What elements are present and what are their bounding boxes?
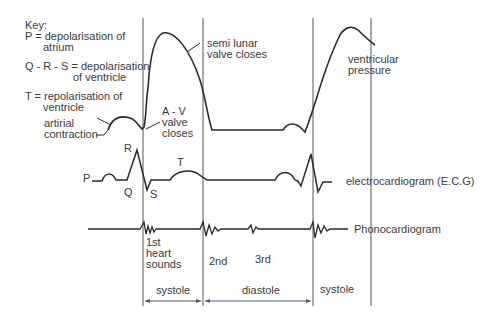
- key-p-line2: atrium: [43, 42, 74, 53]
- second-heart-sound-label: 2nd: [209, 256, 227, 267]
- ventricular-pressure-label-2: pressure: [348, 65, 391, 76]
- phase-arrows: [145, 299, 311, 303]
- systole-label-1: systole: [156, 285, 190, 296]
- atrial-contraction-label-2: contraction: [44, 129, 98, 140]
- ecg-label: electrocardiogram (E.C.G): [346, 176, 474, 187]
- ecg-s-label: S: [150, 189, 157, 200]
- third-heart-sound-label: 3rd: [255, 254, 271, 265]
- diastole-label: diastole: [242, 285, 280, 296]
- first-heart-sound-label-3: sounds: [146, 259, 181, 270]
- ecg-p-label: P: [83, 173, 90, 184]
- av-valve-label-3: closes: [162, 128, 193, 139]
- key-qrs-line2: of ventricle: [73, 72, 126, 83]
- phonocardiogram-trace: [88, 222, 348, 238]
- semi-lunar-label-2: valve closes: [207, 49, 267, 60]
- ecg-q-label: Q: [124, 187, 133, 198]
- ecg-t-label: T: [177, 157, 184, 168]
- systole-label-2: systole: [320, 284, 354, 295]
- key-p-line1: P = depolarisation of: [25, 31, 125, 42]
- key-t-line2: ventricle: [43, 102, 84, 113]
- ecg-r-label: R: [124, 143, 132, 154]
- phonocardiogram-label: Phonocardiogram: [354, 224, 441, 235]
